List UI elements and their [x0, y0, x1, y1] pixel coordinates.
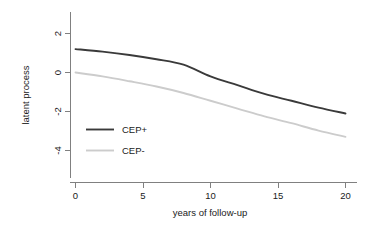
chart-figure: 2 0 -2 -4 0 5 10 15 20 years of follow-u… — [0, 0, 385, 237]
x-tick-label: 5 — [140, 190, 145, 201]
x-tick-label: 10 — [205, 190, 216, 201]
legend-label-cep-negative: CEP- — [122, 145, 145, 156]
x-axis-title: years of follow-up — [173, 207, 247, 218]
x-tick-label: 15 — [273, 190, 284, 201]
x-tick-label: 20 — [340, 190, 351, 201]
y-tick-label: 2 — [52, 31, 63, 36]
x-tick-label: 0 — [73, 190, 78, 201]
legend-label-cep-positive: CEP+ — [122, 124, 148, 135]
y-axis-title: latent process — [20, 65, 31, 124]
y-tick-label: -2 — [52, 107, 63, 115]
y-tick-label: 0 — [52, 70, 63, 75]
line-chart: 2 0 -2 -4 0 5 10 15 20 years of follow-u… — [0, 0, 385, 237]
y-tick-label: -4 — [52, 146, 63, 154]
